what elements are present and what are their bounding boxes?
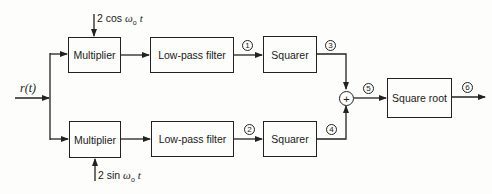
input-signal-label: r(t) bbox=[20, 81, 36, 96]
cos-reference-label: 2 cos ωo t bbox=[97, 12, 143, 26]
sin-reference-label: 2 sin ωo t bbox=[98, 169, 141, 183]
top-squarer-block: Squarer bbox=[263, 36, 317, 73]
node-4-marker: 4 bbox=[326, 124, 337, 135]
omega-subscript: o bbox=[131, 176, 135, 183]
summer-junction: + bbox=[339, 91, 354, 106]
square-root-block: Square root bbox=[387, 78, 452, 118]
omega-subscript: o bbox=[133, 19, 137, 26]
reference-prefix: 2 sin bbox=[98, 169, 123, 181]
time-variable: t bbox=[138, 169, 141, 181]
node-5-marker: 5 bbox=[363, 83, 374, 94]
bottom-lowpass-filter-block: Low-pass filter bbox=[151, 121, 234, 157]
node-3-marker: 3 bbox=[325, 40, 336, 51]
top-lowpass-filter-block: Low-pass filter bbox=[150, 37, 234, 73]
omega-symbol: ω bbox=[123, 169, 131, 181]
time-variable: t bbox=[140, 12, 143, 24]
node-1-marker: 1 bbox=[242, 40, 253, 51]
bottom-multiplier-block: Multiplier bbox=[69, 121, 121, 158]
node-6-marker: 6 bbox=[462, 82, 473, 93]
reference-prefix: 2 cos bbox=[97, 12, 125, 24]
omega-symbol: ω bbox=[125, 12, 133, 24]
top-multiplier-block: Multiplier bbox=[68, 37, 121, 73]
bottom-squarer-block: Squarer bbox=[263, 121, 317, 157]
node-2-marker: 2 bbox=[244, 124, 255, 135]
